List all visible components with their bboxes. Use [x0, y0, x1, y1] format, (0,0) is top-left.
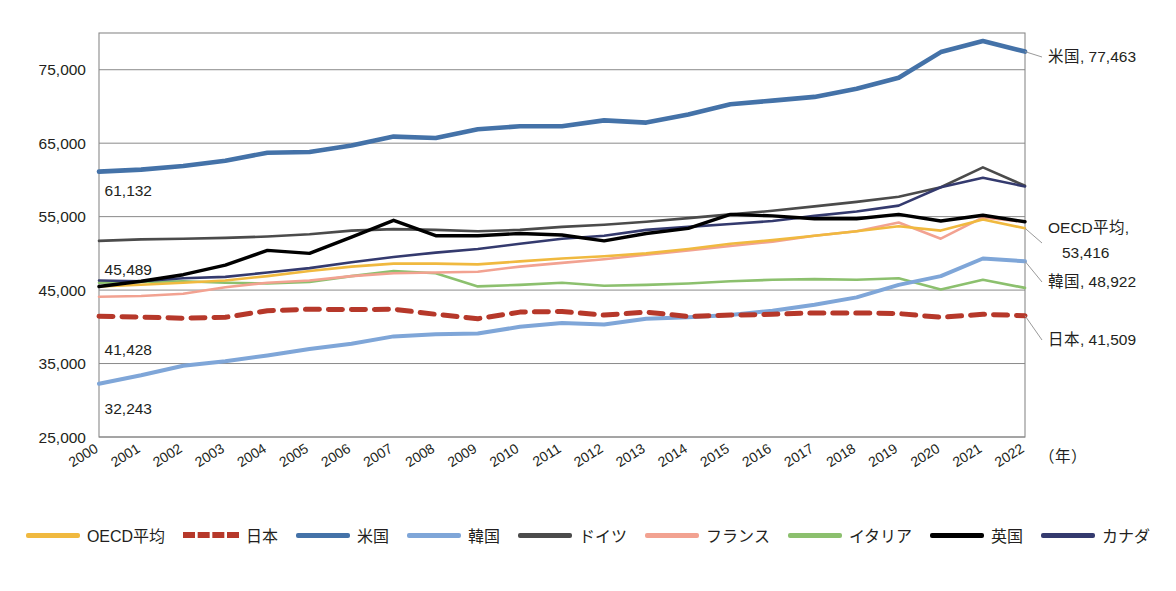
series-line-ドイツ	[99, 167, 1025, 241]
y-tick-label: 65,000	[39, 135, 87, 152]
x-tick-label: 2015	[697, 440, 732, 470]
legend-swatch-icon	[930, 533, 984, 538]
x-tick-label: 2007	[360, 440, 395, 470]
legend-item-カナダ[interactable]: カナダ	[1041, 523, 1150, 547]
figure-caption	[0, 578, 1176, 591]
x-tick-label: 2011	[530, 440, 564, 470]
right-annotation-OECD平均-value: 53,416	[1062, 244, 1109, 261]
y-tick-label: 55,000	[39, 208, 87, 225]
y-tick-label: 35,000	[39, 355, 87, 372]
legend-label: OECD平均	[87, 523, 165, 547]
x-tick-label: 2008	[402, 440, 437, 470]
x-tick-label: 2016	[739, 440, 774, 470]
x-tick-label: 2001	[108, 440, 143, 470]
left-annotation-米国: 61,132	[105, 182, 152, 199]
legend-label: 米国	[357, 523, 389, 547]
legend-item-OECD平均[interactable]: OECD平均	[26, 523, 165, 547]
y-tick-label: 75,000	[39, 61, 87, 78]
x-tick-label: 2003	[192, 440, 227, 470]
x-tick-label: 2006	[318, 440, 353, 470]
x-axis-unit-label: （年）	[1039, 448, 1087, 465]
left-annotation-日本: 41,428	[105, 341, 152, 358]
series-line-カナダ	[99, 178, 1025, 282]
legend-item-米国[interactable]: 米国	[296, 523, 389, 547]
legend-swatch-icon	[1041, 533, 1095, 538]
x-tick-label: 2004	[234, 440, 269, 470]
legend-label: イタリア	[849, 523, 912, 547]
series-line-日本	[99, 309, 1025, 319]
x-tick-label: 2014	[655, 440, 690, 470]
legend-label: フランス	[706, 523, 770, 547]
x-tick-label: 2021	[950, 440, 985, 470]
x-tick-label: 2017	[781, 440, 816, 470]
legend-label: 日本	[246, 523, 278, 547]
legend-swatch-icon	[183, 532, 239, 538]
x-tick-label: 2009	[445, 440, 480, 470]
y-tick-label: 45,000	[39, 282, 87, 299]
x-tick-label: 2022	[992, 440, 1027, 470]
right-annotation-韓国: 韓国, 48,922	[1048, 273, 1136, 290]
legend-swatch-icon	[518, 533, 572, 538]
legend-item-韓国[interactable]: 韓国	[407, 523, 500, 547]
x-tick-label: 2002	[150, 440, 185, 470]
legend-item-イタリア[interactable]: イタリア	[788, 523, 912, 547]
x-tick-label: 2013	[613, 440, 648, 470]
x-tick-label: 2020	[908, 440, 943, 470]
right-annotation-OECD平均: OECD平均,	[1048, 219, 1129, 236]
legend-label: カナダ	[1102, 523, 1150, 547]
legend-swatch-icon	[26, 533, 80, 538]
left-annotation-韓国: 32,243	[105, 400, 152, 417]
legend-label: 韓国	[468, 523, 500, 547]
legend-label: ドイツ	[579, 523, 627, 547]
legend-swatch-icon	[645, 533, 699, 538]
legend-item-英国[interactable]: 英国	[930, 523, 1023, 547]
legend-swatch-icon	[788, 533, 842, 538]
series-line-米国	[99, 41, 1025, 172]
chart-container: 25,00035,00045,00055,00065,00075,000 200…	[0, 0, 1176, 591]
x-tick-label: 2012	[571, 440, 606, 470]
right-annotation-米国: 米国, 77,463	[1048, 48, 1136, 65]
x-tick-label: 2018	[823, 440, 858, 470]
y-tick-label: 25,000	[39, 429, 87, 446]
series-line-韓国	[99, 259, 1025, 384]
legend-item-日本[interactable]: 日本	[183, 523, 278, 547]
x-tick-label: 2010	[487, 440, 522, 470]
legend-swatch-icon	[407, 533, 461, 538]
chart-legend: OECD平均日本米国韓国ドイツフランスイタリア英国カナダ	[0, 518, 1176, 552]
left-annotation-OECD平均: 45,489	[105, 261, 152, 278]
x-tick-label: 2005	[276, 440, 311, 470]
x-axis-ticks: 2000200120022003200420052006200720082009…	[66, 440, 1087, 470]
legend-item-ドイツ[interactable]: ドイツ	[518, 523, 627, 547]
legend-label: 英国	[991, 523, 1023, 547]
series-lines	[99, 41, 1025, 384]
y-axis-ticks: 25,00035,00045,00055,00065,00075,000	[39, 61, 87, 445]
legend-item-フランス[interactable]: フランス	[645, 523, 770, 547]
line-chart-plot: 25,00035,00045,00055,00065,00075,000 200…	[0, 0, 1176, 591]
series-line-フランス	[99, 217, 1025, 296]
x-tick-label: 2019	[865, 440, 900, 470]
right-annotation-日本: 日本, 41,509	[1048, 331, 1136, 348]
legend-swatch-icon	[296, 533, 350, 538]
